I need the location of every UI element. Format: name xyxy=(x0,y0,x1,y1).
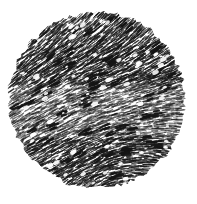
page xyxy=(0,0,197,204)
micrograph-canvas xyxy=(0,0,197,204)
circular-halftone-figure xyxy=(0,0,197,204)
